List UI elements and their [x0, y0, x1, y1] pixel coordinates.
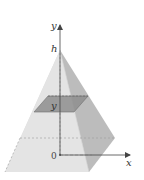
section-height-label: y: [50, 100, 57, 111]
origin-label: 0: [51, 151, 57, 161]
apex-label-h: h: [51, 43, 57, 54]
y-axis-label: y: [50, 20, 57, 31]
x-axis-label: x: [126, 157, 132, 168]
pyramid-diagram: y x h 0 y: [0, 0, 144, 180]
origin-point: [59, 154, 61, 156]
